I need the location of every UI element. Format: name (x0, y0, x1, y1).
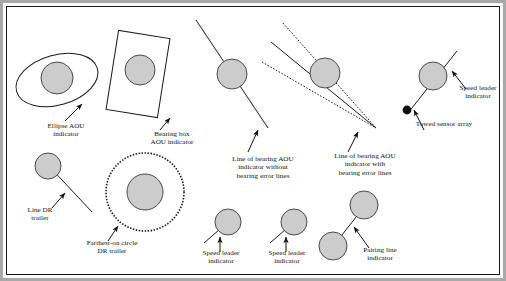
label-ellipse-aou: Ellipse AOU indicator (28, 122, 104, 139)
label-lob-without-error: Line of bearing AOU indicator without be… (204, 155, 322, 180)
pairing-line-leader-line (354, 227, 369, 248)
symbology-diagram: Ellipse AOU indicator Bearing box AOU in… (0, 0, 506, 281)
contact-circle (419, 62, 447, 90)
contact-circle-upper (350, 191, 378, 219)
line-dr-trailer-symbol (35, 153, 92, 212)
label-towed-sensor-array: Towed sensor array (402, 120, 486, 128)
label-bearing-box-aou: Bearing box AOU indicator (132, 130, 212, 147)
label-lob-with-error: Line of bearing AOU indicator with beari… (307, 152, 423, 177)
contact-circle (281, 209, 307, 235)
lob-with-error-symbol (262, 23, 376, 152)
label-pairing-line: Pairing line indicator (348, 246, 412, 263)
lob-with-error-leader-line (348, 132, 358, 152)
label-speed-leader-b2: Speed leader indicator (255, 249, 319, 266)
contact-circle-lower (319, 232, 347, 260)
contact-circle (310, 58, 340, 88)
bearing-box-leader-line (160, 118, 170, 130)
label-farthest-on-circle: Farthest-on circle DR trailer (66, 239, 158, 256)
contact-circle (35, 153, 61, 179)
bearing-box-aou-symbol (106, 30, 170, 130)
ellipse-aou-leader-line (65, 104, 82, 121)
label-speed-leader-top: Speed leader indicator (452, 84, 504, 101)
speed-leader-b2-symbol (270, 209, 307, 252)
contact-circle (125, 55, 155, 85)
contact-circle (215, 209, 241, 235)
label-speed-leader-b1: Speed leader indicator (189, 249, 253, 266)
label-line-dr-trailer: Line DR trailer (14, 206, 66, 223)
towed-array-endpoint-dot (403, 106, 412, 115)
lob-without-error-leader-line (248, 130, 258, 152)
contact-circle (217, 59, 247, 89)
contact-circle (127, 174, 163, 210)
speed-leader-b1-symbol (204, 209, 241, 252)
ellipse-aou-symbol (10, 44, 105, 121)
farthest-on-circle-symbol (106, 153, 184, 241)
contact-circle (41, 62, 73, 94)
